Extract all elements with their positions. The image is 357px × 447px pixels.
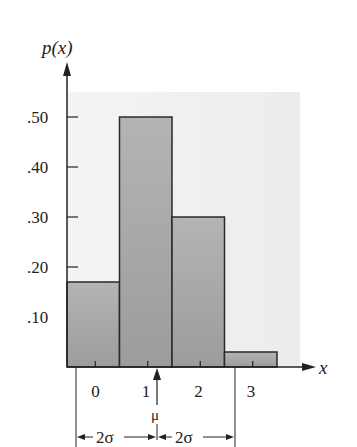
x-tick-label: 2 <box>194 382 203 401</box>
histogram-chart: p(x) .10.20.30.40.50 x 0123 μ 2σ 2σ <box>0 0 357 447</box>
bar-0 <box>67 282 120 367</box>
x-tick-label: 0 <box>91 382 100 401</box>
bar-3 <box>225 352 278 367</box>
x-axis-label: x <box>318 357 328 378</box>
y-axis-arrow-icon <box>63 62 71 76</box>
right-span-label: 2σ <box>175 428 193 447</box>
arrow-left-icon <box>77 434 85 440</box>
y-tick-label: .50 <box>27 108 48 127</box>
bar-1 <box>120 117 173 367</box>
x-tick-label: 1 <box>142 382 151 401</box>
y-axis-label: p(x) <box>40 37 73 59</box>
mean-label: μ <box>151 407 159 423</box>
left-span-label: 2σ <box>96 428 114 447</box>
bar-2 <box>172 217 225 367</box>
x-tick-labels: 0123 <box>91 382 255 401</box>
x-axis-arrow-icon <box>302 363 316 371</box>
y-tick-label: .10 <box>27 308 48 327</box>
arrow-right-icon <box>148 434 156 440</box>
x-tick-label: 3 <box>247 382 256 401</box>
mean-arrow-icon <box>153 368 161 380</box>
y-tick-label: .30 <box>27 208 48 227</box>
arrow-right-icon <box>226 434 234 440</box>
y-tick-label: .20 <box>27 258 48 277</box>
y-tick-label: .40 <box>27 158 48 177</box>
